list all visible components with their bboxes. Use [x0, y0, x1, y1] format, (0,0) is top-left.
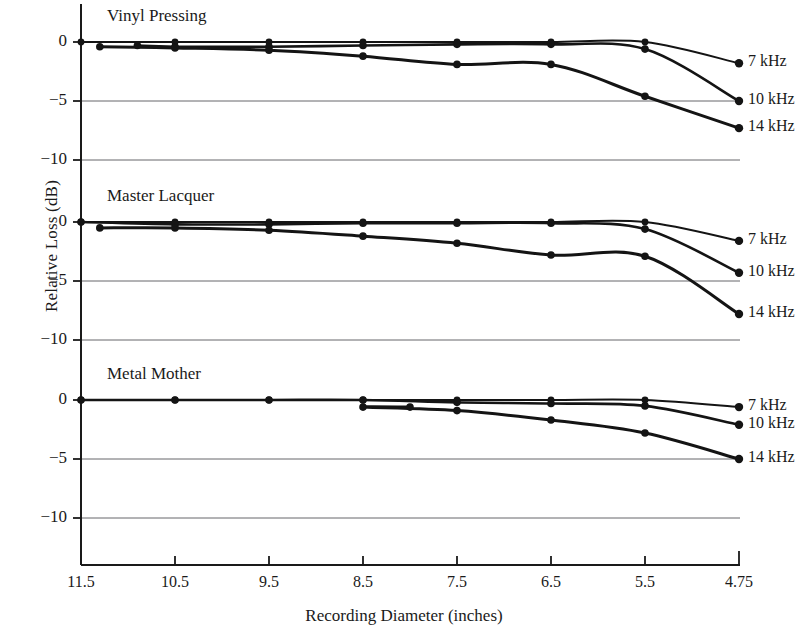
- series-label: 14 kHz: [748, 117, 795, 135]
- data-point: [547, 41, 555, 49]
- data-point-end: [735, 310, 743, 318]
- y-tick-label: −5: [17, 270, 67, 290]
- data-point: [547, 400, 555, 408]
- data-point: [77, 218, 85, 226]
- data-point: [265, 396, 273, 404]
- data-point-end: [735, 455, 743, 463]
- data-point: [453, 41, 461, 49]
- data-point: [171, 224, 179, 232]
- data-point: [265, 46, 273, 54]
- data-curve: [81, 222, 739, 273]
- data-curve: [137, 43, 739, 101]
- data-point: [78, 39, 85, 46]
- data-point: [359, 219, 367, 227]
- data-point: [642, 219, 649, 226]
- data-point: [359, 396, 367, 404]
- series-label: 7 kHz: [748, 396, 787, 414]
- series-label: 7 kHz: [748, 52, 787, 70]
- y-tick-label: 0: [17, 389, 67, 409]
- data-point: [642, 39, 649, 46]
- data-point-end: [735, 124, 743, 132]
- x-tick-label: 6.5: [521, 573, 581, 591]
- data-point: [359, 403, 367, 411]
- chart-figure: Relative Loss (dB) Recording Diameter (i…: [0, 0, 808, 642]
- data-point: [641, 225, 649, 233]
- x-tick-label: 5.5: [615, 573, 675, 591]
- y-tick-label: −10: [17, 149, 67, 169]
- data-point: [453, 219, 461, 227]
- data-point: [171, 396, 179, 404]
- y-tick-label: 0: [17, 31, 67, 51]
- data-point: [359, 42, 367, 50]
- data-point: [453, 61, 461, 69]
- data-point: [359, 52, 367, 60]
- y-tick-label: −5: [17, 448, 67, 468]
- data-curve: [100, 47, 739, 128]
- data-point: [547, 61, 555, 69]
- series-label: 10 kHz: [748, 90, 795, 108]
- data-point-end: [735, 421, 743, 429]
- series-label: 10 kHz: [748, 262, 795, 280]
- x-axis-label: Recording Diameter (inches): [0, 606, 808, 626]
- data-point: [171, 44, 179, 52]
- series-label: 14 kHz: [748, 303, 795, 321]
- data-point: [96, 43, 104, 51]
- series-label: 10 kHz: [748, 414, 795, 432]
- data-point-end: [735, 269, 743, 277]
- y-tick-label: −10: [17, 507, 67, 527]
- panel-title: Metal Mother: [107, 364, 201, 384]
- x-tick-label: 9.5: [239, 573, 299, 591]
- data-point: [641, 252, 649, 260]
- data-point: [359, 232, 367, 240]
- y-tick-label: 0: [17, 211, 67, 231]
- data-curve: [100, 228, 739, 314]
- panel-title: Master Lacquer: [107, 186, 214, 206]
- x-tick-label: 10.5: [145, 573, 205, 591]
- data-point: [406, 403, 414, 411]
- series-label: 7 kHz: [748, 230, 787, 248]
- data-point: [453, 399, 461, 407]
- data-point: [641, 429, 649, 437]
- data-point: [453, 239, 461, 247]
- data-point: [547, 251, 555, 259]
- data-curve: [362, 407, 739, 459]
- panel-title: Vinyl Pressing: [107, 6, 207, 26]
- data-point: [265, 226, 273, 234]
- data-point: [96, 224, 104, 232]
- data-point-end: [735, 59, 743, 67]
- x-tick-label: 7.5: [427, 573, 487, 591]
- y-axis-label: Relative Loss (dB): [42, 146, 62, 346]
- x-tick-label: 8.5: [333, 573, 393, 591]
- series-label: 14 kHz: [748, 448, 795, 466]
- data-point: [453, 407, 461, 415]
- data-point: [641, 45, 649, 53]
- data-point-end: [735, 403, 743, 411]
- data-point: [547, 416, 555, 424]
- data-point: [547, 219, 555, 227]
- data-point-end: [735, 237, 743, 245]
- x-tick-label: 4.75: [709, 573, 769, 591]
- y-tick-label: −5: [17, 90, 67, 110]
- data-point: [641, 402, 649, 410]
- x-tick-label: 11.5: [51, 573, 111, 591]
- data-point-end: [735, 97, 743, 105]
- data-point: [641, 92, 649, 100]
- y-tick-label: −10: [17, 329, 67, 349]
- chart-canvas: [0, 0, 808, 642]
- data-point: [77, 396, 85, 404]
